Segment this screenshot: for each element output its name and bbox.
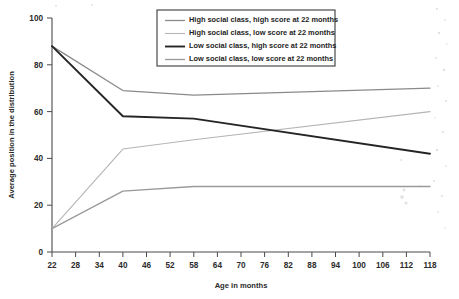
x-tick-label-82: 82 [284, 261, 294, 270]
legend-label-3: Low social class, low score at 22 months [189, 54, 333, 63]
y-tick-label-0: 0 [38, 248, 43, 257]
line-chart: 100 80 60 40 20 0 22 2 [0, 0, 459, 299]
x-tick-label-34: 34 [95, 261, 105, 270]
series-line-3 [52, 186, 430, 228]
x-tick-label-88: 88 [307, 261, 317, 270]
x-tick-label-58: 58 [189, 261, 199, 270]
x-tick-label-22: 22 [47, 261, 57, 270]
y-axis-ticks: 100 80 60 40 20 0 [29, 14, 52, 257]
x-tick-label-76: 76 [260, 261, 270, 270]
y-tick-label-60: 60 [34, 108, 44, 117]
x-tick-label-112: 112 [400, 261, 414, 270]
series-line-1 [52, 112, 430, 229]
x-tick-label-46: 46 [142, 261, 152, 270]
x-tick-label-118: 118 [423, 261, 437, 270]
y-tick-label-40: 40 [34, 154, 44, 163]
legend-label-0: High social class, high score at 22 mont… [189, 15, 338, 24]
y-tick-label-100: 100 [29, 14, 43, 23]
x-tick-label-28: 28 [71, 261, 81, 270]
chart-legend: High social class, high score at 22 mont… [157, 10, 338, 66]
x-tick-label-52: 52 [166, 261, 176, 270]
y-tick-label-20: 20 [34, 201, 44, 210]
y-tick-label-80: 80 [34, 61, 44, 70]
x-axis-ticks: 22 28 34 40 46 52 58 64 70 76 82 88 94 1… [47, 252, 437, 270]
x-tick-label-70: 70 [236, 261, 246, 270]
x-tick-label-64: 64 [213, 261, 223, 270]
x-tick-label-100: 100 [352, 261, 366, 270]
x-tick-label-40: 40 [118, 261, 128, 270]
x-tick-label-94: 94 [331, 261, 341, 270]
chart-figure: 100 80 60 40 20 0 22 2 [0, 0, 459, 299]
x-axis-title: Age in months [215, 281, 268, 290]
x-tick-label-106: 106 [376, 261, 390, 270]
y-axis-title: Average position in the distribution [7, 71, 16, 199]
legend-label-2: Low social class, high score at 22 month… [189, 41, 336, 50]
series-group [52, 46, 430, 229]
legend-label-1: High social class, low score at 22 month… [189, 28, 335, 37]
